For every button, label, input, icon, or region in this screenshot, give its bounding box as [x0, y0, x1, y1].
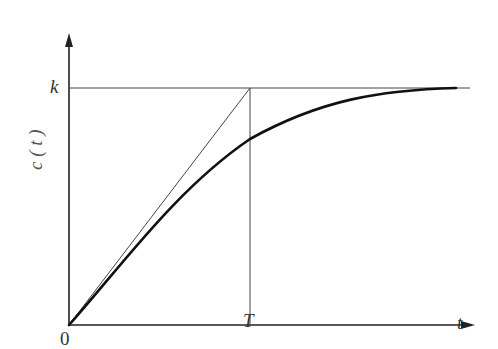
origin-label: 0 — [60, 328, 70, 349]
x-axis-arrow-icon — [461, 321, 475, 329]
y-axis-label: c ( t ) — [25, 129, 47, 170]
response-curve — [69, 88, 456, 325]
x-axis-label: t — [457, 312, 462, 334]
y-axis-arrow-icon — [65, 33, 73, 47]
k-label: k — [50, 76, 58, 98]
tangent-line — [69, 88, 250, 325]
t-tick-label: T — [243, 310, 254, 332]
